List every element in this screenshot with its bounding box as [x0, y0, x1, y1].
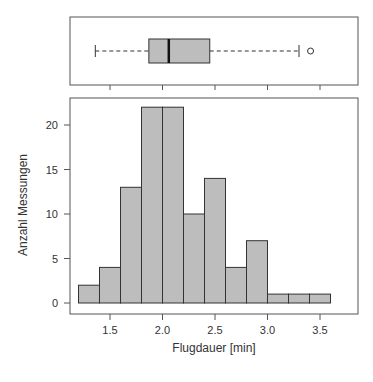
- histogram-bar: [289, 294, 310, 303]
- y-axis-label: Anzahl Messungen: [16, 154, 30, 256]
- histogram-bar: [142, 107, 163, 303]
- x-tick-label: 1.5: [102, 324, 117, 336]
- y-tick-label: 20: [46, 119, 58, 131]
- boxplot-x-ticks: [110, 85, 320, 90]
- histogram-bar: [184, 214, 205, 303]
- histogram-bar: [163, 107, 184, 303]
- y-tick-label: 15: [46, 164, 58, 176]
- histogram-bar: [121, 187, 142, 303]
- x-tick-label: 3.5: [312, 324, 327, 336]
- x-axis-label: Flugdauer [min]: [172, 341, 255, 355]
- histogram-bar: [247, 241, 268, 303]
- x-tick-label: 2.0: [155, 324, 170, 336]
- boxplot: [95, 39, 313, 63]
- y-tick-label: 0: [52, 297, 58, 309]
- iqr-box: [149, 39, 210, 63]
- y-tick-label: 10: [46, 208, 58, 220]
- histogram-bar: [268, 294, 289, 303]
- histogram-bar: [100, 267, 121, 303]
- histogram-bar: [226, 267, 247, 303]
- histogram-bars: [79, 107, 331, 303]
- outlier-point: [308, 48, 314, 54]
- boxplot-panel: [70, 17, 358, 90]
- histogram-bar: [310, 294, 331, 303]
- histogram-panel: 05101520 1.52.02.53.03.5 Flugdauer [min]…: [16, 98, 358, 355]
- y-tick-label: 5: [52, 253, 58, 265]
- x-axis: 1.52.02.53.03.5: [102, 314, 327, 336]
- y-axis: 05101520: [46, 119, 70, 309]
- chart-canvas: 05101520 1.52.02.53.03.5 Flugdauer [min]…: [0, 0, 373, 382]
- histogram-bar: [79, 285, 100, 303]
- histogram-bar: [205, 178, 226, 303]
- x-tick-label: 2.5: [207, 324, 222, 336]
- x-tick-label: 3.0: [260, 324, 275, 336]
